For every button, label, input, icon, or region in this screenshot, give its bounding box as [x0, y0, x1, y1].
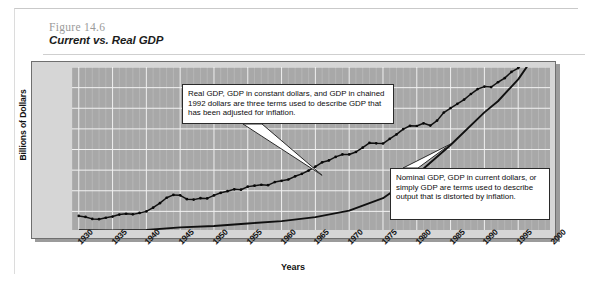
- figure-number: Figure 14.6: [49, 21, 105, 33]
- callout-real-gdp-text: Real GDP, GDP in constant dollars, and G…: [188, 89, 388, 118]
- callout-nominal-gdp: Nominal GDP, GDP in current dollars, or …: [390, 168, 550, 220]
- x-axis-title: Years: [281, 262, 305, 272]
- callout-nominal-gdp-text: Nominal GDP, GDP in current dollars, or …: [396, 173, 544, 202]
- callout-real-gdp: Real GDP, GDP in constant dollars, and G…: [182, 84, 394, 124]
- title-divider: [43, 54, 585, 55]
- figure-title: Current vs. Real GDP: [49, 34, 163, 46]
